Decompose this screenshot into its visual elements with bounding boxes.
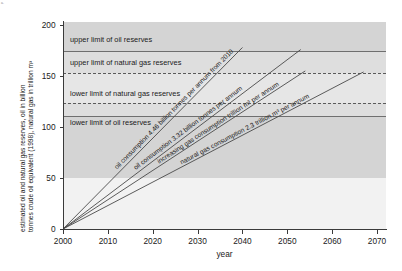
series-line-0: [63, 47, 242, 229]
y-tick-label: 0: [51, 224, 56, 234]
y-tick-label: 200: [42, 20, 56, 30]
y-tick: [60, 25, 64, 26]
x-tick-label: 2070: [368, 236, 386, 246]
y-axis: 050100150200: [63, 21, 64, 230]
x-tick: [242, 230, 243, 234]
x-axis-label: year: [63, 249, 386, 259]
x-tick: [108, 230, 109, 234]
y-axis-label-line2: tonnes crude oil equivalent (1998), natu…: [27, 23, 35, 232]
x-tick: [63, 230, 64, 234]
x-tick-label: 2060: [323, 236, 341, 246]
y-tick: [60, 76, 64, 77]
x-tick-label: 2010: [99, 236, 117, 246]
chart-figure: a. upper limit of oil reservesupper limi…: [0, 0, 402, 271]
y-tick: [60, 178, 64, 179]
reserve-limit-label: lower limit of oil reserves: [70, 118, 151, 127]
y-tick-label: 100: [42, 122, 56, 132]
reserve-limit-label: upper limit of natural gas reserves: [70, 58, 181, 67]
x-tick-label: 2020: [143, 236, 161, 246]
y-axis-label: estimated oil and natural gas reserves, …: [19, 23, 32, 232]
x-tick: [198, 230, 199, 234]
y-tick-label: 150: [42, 71, 56, 81]
x-tick-label: 2050: [278, 236, 296, 246]
x-tick-label: 2030: [188, 236, 206, 246]
x-tick-label: 2040: [233, 236, 251, 246]
x-tick-label: 2000: [54, 236, 72, 246]
series-line-1: [63, 50, 301, 229]
x-tick: [287, 230, 288, 234]
plot-area: upper limit of oil reservesupper limit o…: [63, 22, 386, 229]
y-tick-label: 50: [46, 173, 55, 183]
y-tick: [60, 127, 64, 128]
figure-corner-mark: a.: [1, 1, 4, 5]
reserve-limit-label: lower limit of natural gas reserves: [70, 89, 180, 98]
x-tick: [377, 230, 378, 234]
y-axis-label-line1: estimated oil and natural gas reserves, …: [19, 23, 27, 232]
x-tick: [332, 230, 333, 234]
reserve-limit-label: upper limit of oil reserves: [70, 35, 152, 44]
x-axis: 20002010202020302040205020602070: [62, 229, 387, 230]
x-tick: [153, 230, 154, 234]
